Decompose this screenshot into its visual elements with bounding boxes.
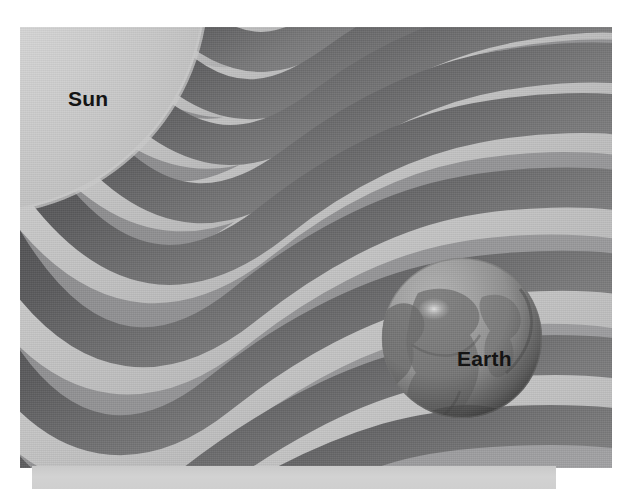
earth-label: Earth	[457, 347, 512, 371]
sun-label: Sun	[68, 87, 108, 111]
footer-bar	[32, 466, 556, 489]
figure-canvas: Sun Earth	[0, 0, 630, 489]
illustration-panel: Sun Earth	[20, 27, 612, 468]
earth-specular-highlight	[418, 298, 450, 320]
radiation-diagram-svg	[20, 27, 612, 468]
